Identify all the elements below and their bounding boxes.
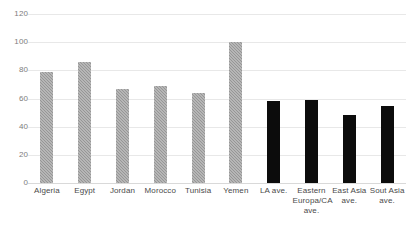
bar-jordan xyxy=(116,89,129,183)
x-tick-label: Yemen xyxy=(217,186,255,196)
bar-la-ave xyxy=(267,101,280,183)
bar-egypt xyxy=(78,62,91,183)
plot-area xyxy=(28,14,406,183)
y-tick-label: 40 xyxy=(4,123,28,131)
bar-eastern-europa-ca-ave xyxy=(305,100,318,183)
gridline xyxy=(28,14,406,15)
bar-chart: 020406080100120 AlgeriaEgyptJordanMorocc… xyxy=(0,0,412,229)
bar-east-asia-ave xyxy=(343,115,356,183)
x-tick-label: LA ave. xyxy=(255,186,293,196)
y-tick-label: 60 xyxy=(4,95,28,103)
gridline xyxy=(28,42,406,43)
gridline xyxy=(28,183,406,184)
y-tick-label: 100 xyxy=(4,38,28,46)
x-tick-label: Morocco xyxy=(141,186,179,196)
x-tick-label: Egypt xyxy=(66,186,104,196)
y-tick-label: 80 xyxy=(4,66,28,74)
y-tick-label: 120 xyxy=(4,10,28,18)
bar-sout-asia-ave xyxy=(381,106,394,183)
x-tick-label: East Asia ave. xyxy=(330,186,368,206)
x-tick-label: Tunisia xyxy=(179,186,217,196)
y-tick-label: 0 xyxy=(4,179,28,187)
x-tick-label: Eastern Europa/CA ave. xyxy=(293,186,331,216)
bar-tunisia xyxy=(192,93,205,183)
bar-yemen xyxy=(229,42,242,183)
bar-morocco xyxy=(154,86,167,183)
y-tick-label: 20 xyxy=(4,151,28,159)
bar-algeria xyxy=(40,72,53,183)
y-axis: 020406080100120 xyxy=(0,0,28,183)
x-tick-label: Algeria xyxy=(28,186,66,196)
x-tick-label: Sout Asia ave. xyxy=(368,186,406,206)
x-tick-label: Jordan xyxy=(104,186,142,196)
